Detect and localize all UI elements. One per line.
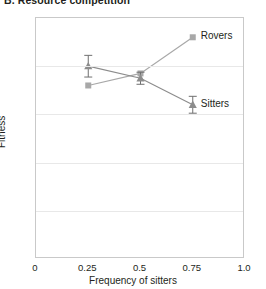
chart-data-layer xyxy=(36,18,245,259)
data-point-marker-square xyxy=(85,82,91,88)
data-point-marker-triangle xyxy=(189,101,197,108)
x-axis-label: Frequency of sitters xyxy=(0,275,266,286)
chart-title: B. Resource competition xyxy=(4,0,130,6)
x-axis-tick-label: 1.0 xyxy=(237,262,250,273)
x-axis-tick-label: 0.75 xyxy=(183,262,202,273)
series-label-rovers: Rovers xyxy=(201,30,233,41)
plot-area xyxy=(35,17,244,258)
y-gridline xyxy=(36,66,243,67)
x-axis-tick-label: 0.5 xyxy=(133,262,146,273)
y-axis-label: Fitness xyxy=(0,116,7,148)
y-gridline xyxy=(36,163,243,164)
x-axis-tick-label: 0 xyxy=(32,262,37,273)
data-point-marker-square xyxy=(190,34,196,40)
y-gridline xyxy=(36,211,243,212)
x-axis-tick-label: 0.25 xyxy=(78,262,97,273)
chart-figure: B. Resource competition Fitness Frequenc… xyxy=(0,0,266,289)
series-label-sitters: Sitters xyxy=(201,98,229,109)
y-gridline xyxy=(36,114,243,115)
